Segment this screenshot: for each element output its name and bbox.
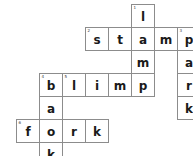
cell-letter: o <box>40 120 62 142</box>
cell-letter: a <box>178 51 193 73</box>
cell-letter: p <box>132 74 154 96</box>
crossword-cell[interactable]: r <box>177 73 193 97</box>
crossword-cell[interactable]: 5l <box>62 73 86 97</box>
crossword-cell[interactable]: 2s <box>85 27 109 51</box>
cell-letter: p <box>178 28 193 50</box>
crossword-cell[interactable]: t <box>108 27 132 51</box>
cell-letter: r <box>178 74 193 96</box>
cell-letter: m <box>109 74 131 96</box>
crossword-cell[interactable]: k <box>85 119 109 143</box>
crossword-grid: 1l2stam3pma4b5limprak6forkk <box>0 0 193 156</box>
crossword-cell[interactable]: m <box>108 73 132 97</box>
crossword-cell[interactable]: m <box>154 27 178 51</box>
crossword-cell[interactable]: a <box>131 27 155 51</box>
crossword-cell[interactable]: 6f <box>16 119 40 143</box>
cell-letter: l <box>132 5 154 27</box>
cell-letter: a <box>40 97 62 119</box>
cell-letter: k <box>178 97 193 119</box>
cell-letter: r <box>63 120 85 142</box>
cell-letter: b <box>40 74 62 96</box>
cell-letter: s <box>86 28 108 50</box>
cell-letter: k <box>40 143 62 156</box>
cell-letter: k <box>86 120 108 142</box>
crossword-cell[interactable]: r <box>62 119 86 143</box>
cell-letter: i <box>86 74 108 96</box>
crossword-cell[interactable]: a <box>177 50 193 74</box>
crossword-cell[interactable]: p <box>131 73 155 97</box>
crossword-cell[interactable]: 1l <box>131 4 155 28</box>
crossword-cell[interactable]: a <box>39 96 63 120</box>
cell-letter: a <box>132 28 154 50</box>
crossword-cell[interactable]: k <box>39 142 63 156</box>
crossword-cell[interactable]: 4b <box>39 73 63 97</box>
cell-letter: m <box>132 51 154 73</box>
crossword-cell[interactable]: o <box>39 119 63 143</box>
crossword-cell[interactable]: i <box>85 73 109 97</box>
cell-letter: m <box>155 28 177 50</box>
crossword-cell[interactable]: m <box>131 50 155 74</box>
crossword-cell[interactable]: k <box>177 96 193 120</box>
cell-letter: l <box>63 74 85 96</box>
cell-letter: f <box>17 120 39 142</box>
crossword-cell[interactable]: 3p <box>177 27 193 51</box>
cell-letter: t <box>109 28 131 50</box>
